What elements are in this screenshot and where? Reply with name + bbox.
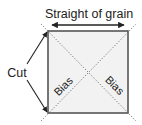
straight-of-grain-label: Straight of grain xyxy=(45,7,133,21)
fabric-grain-diagram: Straight of grain Cut Bias Bias xyxy=(0,0,142,125)
cut-arrow-lower xyxy=(27,80,47,112)
cut-label: Cut xyxy=(7,66,27,80)
cut-arrow-upper xyxy=(27,32,47,64)
